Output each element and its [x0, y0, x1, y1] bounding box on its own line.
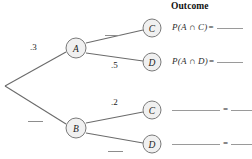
branch-label-b-c: .2 — [111, 97, 118, 107]
node-d-upper: D — [143, 53, 161, 71]
probability-tree-diagram: A B C D C D .3 — [0, 0, 252, 159]
outcome-row: P(A ∩ C) = — [172, 22, 243, 32]
node-c-upper: C — [143, 19, 161, 37]
node-c-upper-label: C — [149, 24, 156, 34]
equals-sign: = — [207, 22, 214, 32]
node-c-lower: C — [143, 101, 161, 119]
outcome-formula: P(A ∩ D) — [172, 56, 208, 66]
branch-b-c — [86, 112, 143, 123]
branch-label-root-b — [28, 108, 43, 126]
blank-underline — [105, 35, 120, 36]
blank-underline — [108, 151, 123, 152]
answer-blank[interactable] — [217, 28, 243, 29]
equals-sign: = — [222, 138, 229, 148]
outcome-header: Outcome — [171, 1, 209, 11]
equals-sign: = — [222, 104, 229, 114]
answer-blank[interactable] — [217, 62, 243, 63]
outcome-row: = — [172, 104, 252, 114]
node-a-label: A — [72, 44, 79, 54]
branch-label-b-d — [108, 138, 123, 156]
formula-blank[interactable] — [172, 144, 220, 145]
answer-blank[interactable] — [231, 110, 252, 111]
equals-sign: = — [208, 56, 215, 66]
node-b-label: B — [73, 124, 79, 134]
formula-blank[interactable] — [172, 110, 220, 111]
branch-label-a-c — [105, 22, 120, 40]
branch-label-root-a: .3 — [30, 42, 37, 52]
node-d-upper-label: D — [148, 58, 156, 68]
node-a: A — [66, 38, 86, 58]
outcome-row: = — [172, 138, 252, 148]
node-b: B — [66, 118, 86, 138]
blank-underline — [28, 121, 43, 122]
outcome-row: P(A ∩ D) = — [172, 56, 243, 66]
node-d-lower-label: D — [148, 140, 156, 150]
node-c-lower-label: C — [149, 106, 156, 116]
node-d-lower: D — [143, 135, 161, 153]
branch-label-a-d: .5 — [111, 60, 118, 70]
branch-root-a — [5, 52, 66, 86]
outcome-formula: P(A ∩ C) — [172, 22, 207, 32]
answer-blank[interactable] — [231, 144, 252, 145]
